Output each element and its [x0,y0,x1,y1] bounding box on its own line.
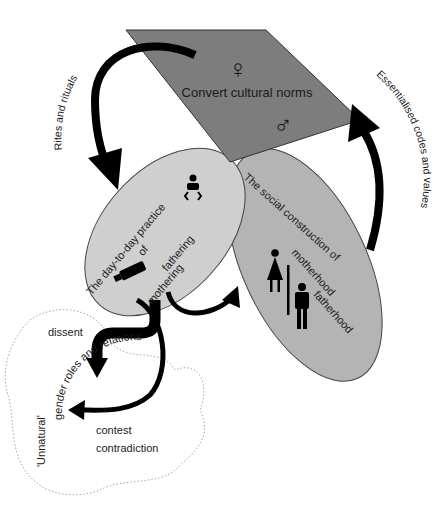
gender-norms-diagram: ♀ Convert cultural norms ♂ The day-to-da… [0,0,444,514]
female-symbol: ♀ [228,54,248,84]
divider-bar [287,265,290,315]
unnatural-label: 'Unnatural' [35,415,47,467]
dissent-label: dissent [48,326,83,338]
contest-label: contest [96,424,131,436]
rites-label: Rites and rituals [51,73,79,151]
plane-label: Convert cultural norms [182,85,313,100]
male-symbol: ♂ [273,110,293,140]
contradiction-label: contradiction [96,442,158,454]
